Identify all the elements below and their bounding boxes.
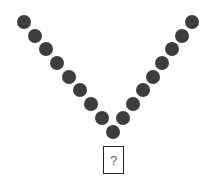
answer-box[interactable]: ?	[103, 146, 124, 174]
left-arm-dot	[62, 70, 76, 84]
left-arm-dot	[84, 97, 98, 111]
right-arm-dot	[126, 97, 140, 111]
right-arm-dot	[146, 70, 160, 84]
right-arm-dot	[165, 42, 179, 56]
right-arm-dot	[136, 83, 150, 97]
right-arm-dot	[155, 56, 169, 70]
left-arm-dot	[50, 56, 64, 70]
bottom-dot	[106, 125, 120, 139]
left-arm-dot	[17, 15, 31, 29]
left-arm-dot	[39, 42, 53, 56]
left-arm-dot	[95, 111, 109, 125]
right-arm-dot	[185, 15, 199, 29]
right-arm-dot	[175, 29, 189, 43]
left-arm-dot	[28, 29, 42, 43]
right-arm-dot	[116, 111, 130, 125]
left-arm-dot	[73, 83, 87, 97]
question-mark: ?	[110, 154, 117, 167]
